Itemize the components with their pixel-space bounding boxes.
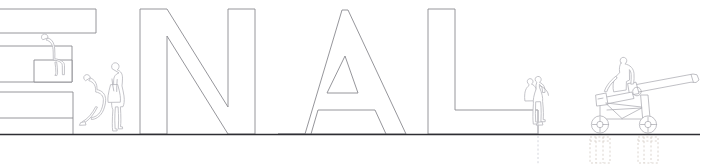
cannon-upright: [641, 95, 650, 118]
figure-seated-front: [533, 76, 545, 124]
architectural-elevation-drawing: [0, 0, 721, 164]
letter-A: [278, 10, 406, 134]
letter-A-leg-void: [311, 110, 386, 134]
elevation-svg-canvas: [0, 0, 721, 164]
footing-under-front-wheel: [590, 137, 610, 163]
figure-dress: [108, 85, 121, 102]
letter-N-outline: [140, 9, 255, 134]
cannon-cradle: [604, 92, 634, 104]
field-cannon: [591, 74, 699, 133]
figure-leaning-on-E-base: [80, 75, 106, 126]
letter-E: [0, 9, 96, 134]
figure-foot: [80, 122, 86, 126]
letter-E-top-bar: [0, 9, 96, 33]
footing-under-rear-wheel: [638, 137, 658, 163]
letter-L-outline: [428, 9, 538, 134]
figure-extended-leg: [82, 107, 97, 124]
letter-N: [140, 9, 255, 134]
cannon-barrel: [634, 74, 699, 93]
letter-L: [428, 9, 538, 134]
letter-E-lower-bar: [0, 92, 73, 118]
letter-E-middle-step: [34, 60, 72, 82]
figure-standing-woman: [108, 63, 124, 131]
cannon-brace-1: [606, 104, 622, 119]
